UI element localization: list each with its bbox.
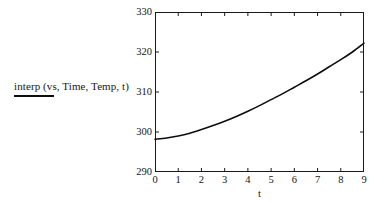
x-tick-label: 0 bbox=[152, 175, 157, 186]
x-tick-label: 7 bbox=[315, 175, 320, 186]
y-tick-label: 330 bbox=[136, 7, 152, 18]
legend-line-swatch bbox=[14, 95, 54, 97]
y-tick-label: 300 bbox=[136, 127, 152, 138]
legend-series-label: interp (vs, Time, Temp, t) bbox=[14, 80, 142, 93]
x-tick-label: 8 bbox=[338, 175, 343, 186]
interpolation-plot-figure: interp (vs, Time, Temp, t) 2903003103203… bbox=[0, 0, 384, 203]
x-tick-label: 4 bbox=[245, 175, 250, 186]
axis-tick-marks bbox=[155, 12, 364, 172]
x-axis-title: t bbox=[258, 189, 261, 200]
x-tick-label: 6 bbox=[292, 175, 297, 186]
plot-area: 290300310320330 0123456789 t bbox=[155, 12, 364, 172]
y-tick-label: 310 bbox=[136, 87, 152, 98]
x-tick-label: 9 bbox=[361, 175, 366, 186]
x-tick-label: 1 bbox=[176, 175, 181, 186]
x-tick-label: 3 bbox=[222, 175, 227, 186]
plot-canvas bbox=[155, 12, 364, 172]
y-tick-label: 290 bbox=[136, 167, 152, 178]
x-tick-label: 5 bbox=[268, 175, 273, 186]
x-tick-label: 2 bbox=[199, 175, 204, 186]
data-series-group bbox=[155, 43, 364, 139]
y-tick-label: 320 bbox=[136, 47, 152, 58]
data-series-line-0 bbox=[155, 43, 364, 139]
plot-legend: interp (vs, Time, Temp, t) bbox=[14, 80, 142, 97]
